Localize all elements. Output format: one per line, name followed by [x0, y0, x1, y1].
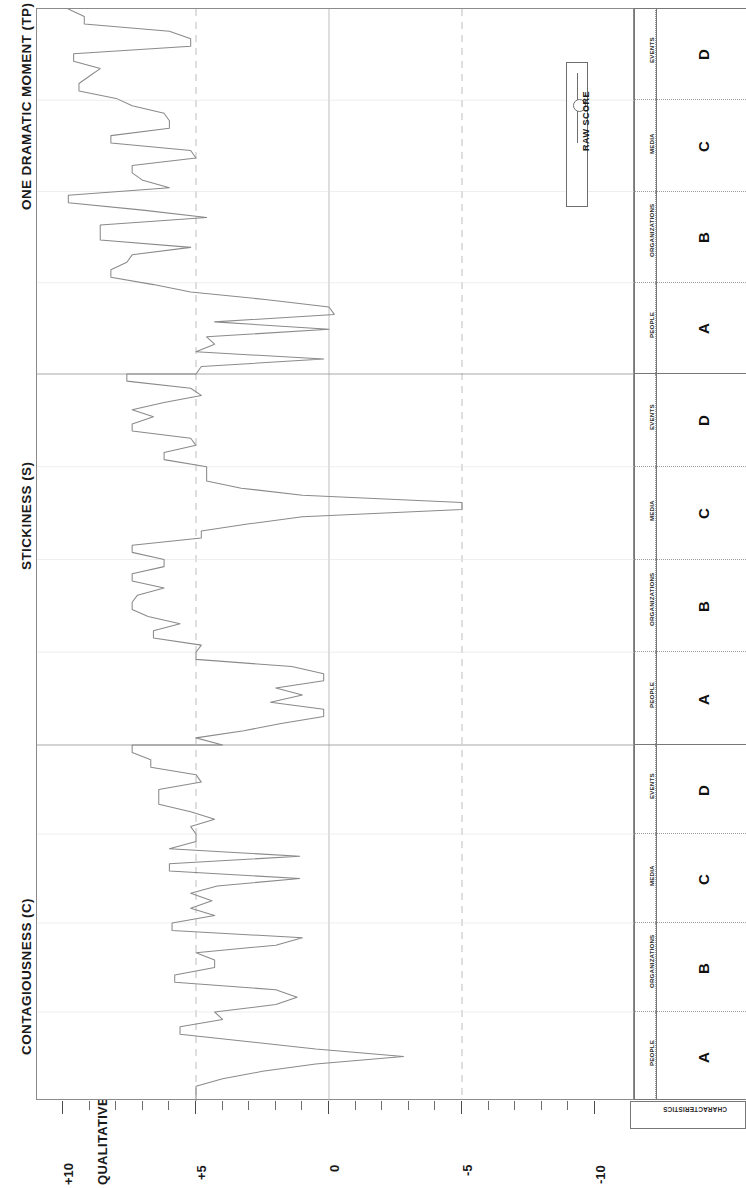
plot-area: [36, 8, 634, 1100]
axis-tick-minus4: [434, 1101, 435, 1110]
axis-tick-minus10: [594, 1101, 595, 1114]
category-name-cell: MEDIA: [634, 100, 656, 190]
legend-box: RAW SCORE: [566, 62, 588, 207]
category-name-cell: EVENTS: [634, 374, 656, 466]
category-row: ORGANIZATIONSB: [634, 191, 746, 282]
category-row: PEOPLEA: [634, 651, 746, 744]
category-name-cell: EVENTS: [634, 745, 656, 833]
axis-tick-plus9: [89, 1101, 90, 1110]
category-code-cell: A: [656, 283, 746, 373]
axis-tick-minus5: [461, 1101, 462, 1114]
category-name-cell: ORGANIZATIONS: [634, 923, 656, 1011]
category-name-label: PEOPLE: [649, 312, 655, 338]
category-name-cell: MEDIA: [634, 467, 656, 559]
category-row: PEOPLEA: [634, 282, 746, 373]
tick-label-plus5: +5: [195, 1165, 208, 1180]
category-table: EVENTSDMEDIACORGANIZATIONSBPEOPLEAEVENTS…: [634, 8, 746, 1100]
tick-label-minus10: -10: [594, 1165, 607, 1184]
axis-tick-plus8: [115, 1101, 116, 1110]
axis-tick-plus5: [195, 1101, 196, 1114]
section-title-contagiousness: CONTAGIOUSNESS (C): [20, 898, 34, 1055]
category-row: ORGANIZATIONSB: [634, 559, 746, 652]
characteristics-axis-label: CHARACTERISTICS: [663, 1106, 727, 1112]
category-row: EVENTSD: [634, 744, 746, 833]
chart-canvas: ONE DRAMATIC MOMENT (TP) STICKINESS (S) …: [0, 0, 746, 1188]
category-row: MEDIAC: [634, 466, 746, 559]
category-code-cell: A: [656, 1012, 746, 1100]
category-code-cell: D: [656, 374, 746, 466]
category-code-cell: B: [656, 192, 746, 282]
axis-tick-minus2: [381, 1101, 382, 1110]
category-code-cell: C: [656, 100, 746, 190]
category-name-label: EVENTS: [649, 773, 655, 799]
axis-tick-minus1: [355, 1101, 356, 1110]
axis-tick-plus2: [275, 1101, 276, 1110]
category-name-cell: PEOPLE: [634, 652, 656, 744]
category-name-label: EVENTS: [649, 404, 655, 430]
category-name-cell: ORGANIZATIONS: [634, 560, 656, 652]
category-code-label: C: [696, 141, 711, 152]
axis-tick-plus10: [62, 1101, 63, 1114]
category-code-label: D: [696, 785, 711, 796]
category-name-label: MEDIA: [649, 866, 655, 887]
value-axis-ticks: [36, 1101, 634, 1115]
axis-tick-minus8: [541, 1101, 542, 1110]
section-title-stickiness: STICKINESS (S): [20, 462, 34, 570]
category-code-label: B: [696, 232, 711, 243]
tick-label-zero: 0: [328, 1165, 341, 1172]
category-row: MEDIAC: [634, 99, 746, 190]
category-name-cell: EVENTS: [634, 8, 656, 99]
category-row: PEOPLEA: [634, 1011, 746, 1100]
category-code-label: A: [696, 694, 711, 705]
category-code-cell: B: [656, 923, 746, 1011]
category-name-label: PEOPLE: [649, 682, 655, 708]
data-line-svg: [37, 9, 635, 1101]
category-name-cell: ORGANIZATIONS: [634, 192, 656, 282]
axis-tick-plus7: [142, 1101, 143, 1110]
category-code-label: C: [696, 508, 711, 519]
category-name-cell: PEOPLE: [634, 283, 656, 373]
category-name-label: ORGANIZATIONS: [649, 573, 655, 626]
category-code-label: B: [696, 601, 711, 612]
axis-tick-plus1: [301, 1101, 302, 1110]
category-code-label: C: [696, 874, 711, 885]
category-code-label: D: [696, 49, 711, 60]
category-name-label: PEOPLE: [649, 1040, 655, 1066]
category-row: MEDIAC: [634, 833, 746, 922]
axis-tick-plus4: [222, 1101, 223, 1110]
category-name-label: MEDIA: [649, 500, 655, 521]
category-row: EVENTSD: [634, 373, 746, 466]
category-code-label: A: [696, 324, 711, 335]
category-code-cell: D: [656, 8, 746, 99]
category-code-label: A: [696, 1052, 711, 1063]
category-code-label: D: [696, 416, 711, 427]
axis-tick-minus6: [488, 1101, 489, 1110]
category-code-cell: B: [656, 560, 746, 652]
category-code-cell: D: [656, 745, 746, 833]
category-name-label: ORGANIZATIONS: [649, 934, 655, 987]
axis-tick-plus6: [168, 1101, 169, 1110]
characteristics-axis-box: CHARACTERISTICS: [630, 1101, 746, 1129]
axis-tick-0: [328, 1101, 329, 1114]
category-name-label: EVENTS: [649, 37, 655, 63]
axis-tick-minus9: [567, 1101, 568, 1110]
axis-tick-plus3: [248, 1101, 249, 1110]
axis-tick-minus7: [514, 1101, 515, 1110]
tick-label-plus10: +10: [62, 1163, 75, 1185]
category-code-cell: C: [656, 834, 746, 922]
category-name-cell: MEDIA: [634, 834, 656, 922]
axis-tick-minus3: [408, 1101, 409, 1110]
section-title-one-dramatic-moment: ONE DRAMATIC MOMENT (TP): [20, 3, 34, 210]
category-name-label: ORGANIZATIONS: [649, 204, 655, 257]
category-name-label: MEDIA: [649, 133, 655, 154]
category-name-cell: PEOPLE: [634, 1012, 656, 1100]
category-row: EVENTSD: [634, 8, 746, 99]
legend-label: RAW SCORE: [582, 91, 591, 151]
tick-label-minus5: -5: [461, 1164, 474, 1176]
category-code-cell: A: [656, 652, 746, 744]
category-row: ORGANIZATIONSB: [634, 922, 746, 1011]
category-code-cell: C: [656, 467, 746, 559]
category-code-label: B: [696, 963, 711, 974]
